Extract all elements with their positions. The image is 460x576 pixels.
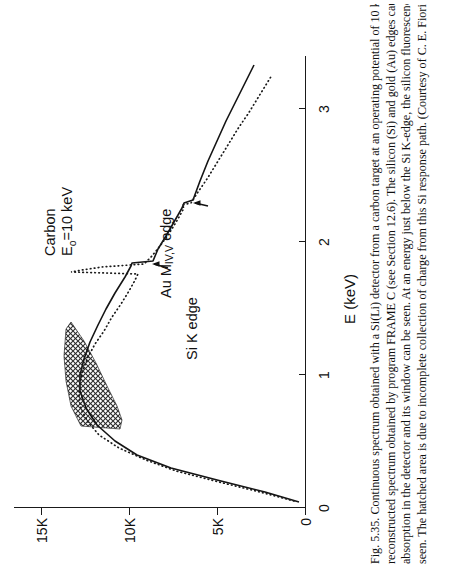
annotation-sample-conditions: Carbon Eo=10 keV (42, 187, 79, 256)
annotation-beam-energy: Eo=10 keV (59, 187, 79, 256)
annotation-si-k-edge: Si K edge (184, 297, 201, 360)
annotation-sample-name: Carbon (42, 187, 59, 256)
rotated-page-content: 0 1 2 3 E (keV) 0 5K 10K 15K (0, 0, 460, 576)
reconstructed-spectrum-curve (80, 65, 299, 502)
figure-caption: Fig. 5.35. Continuous spectrum obtained … (368, 4, 454, 564)
caption-line-1: Fig. 5.35. Continuous spectrum obtained … (368, 4, 384, 564)
spectrum-curves (8, 56, 346, 556)
au-m-edge-arrow (193, 200, 208, 206)
measured-spectrum-curve (71, 75, 294, 501)
caption-line-4: seen. The hatched area is due to incompl… (415, 4, 431, 564)
plot-area: 0 1 2 3 E (keV) 0 5K 10K 15K (8, 56, 346, 556)
caption-line-3: absorption in the detector and its windo… (399, 4, 415, 564)
hatched-incomplete-charge-region (64, 322, 122, 429)
caption-line-2: reconstructed spectrum obtained by progr… (384, 4, 400, 564)
annotation-au-m-edge: Au MIV,V edge (158, 209, 176, 298)
